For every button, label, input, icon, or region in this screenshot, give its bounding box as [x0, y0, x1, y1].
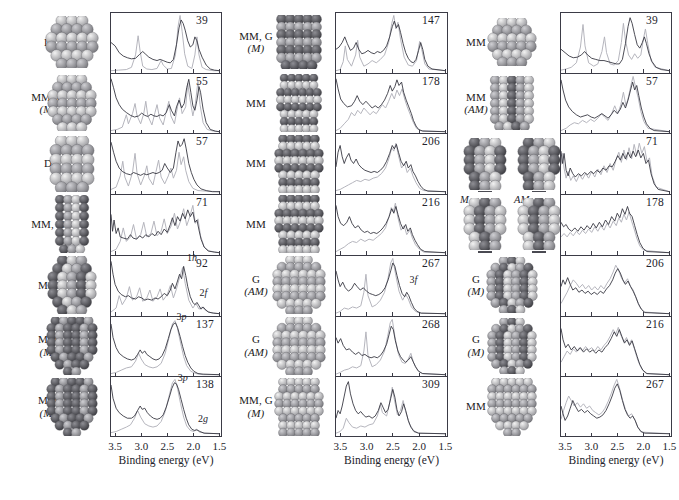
- panel-ticks: [560, 433, 672, 437]
- x-axis: 3.53.02.52.01.5Binding energy (eV): [110, 440, 222, 472]
- cluster-size-label: 206: [646, 257, 664, 269]
- axis-tick-label: 2.5: [160, 440, 174, 452]
- theory-curve: [336, 387, 445, 434]
- cluster-structure-image: [272, 135, 326, 193]
- panel-ticks: [110, 433, 222, 437]
- orbital-annotation: 3p: [177, 311, 187, 322]
- cluster-structure-image: [458, 198, 566, 250]
- table-row: MM206: [225, 133, 457, 194]
- cluster-structure-image: [270, 256, 328, 314]
- experiment-curve: [111, 210, 219, 253]
- axis-tick: [392, 433, 393, 437]
- cluster-structure-image: [44, 317, 100, 375]
- table-row: MAM71: [450, 133, 679, 194]
- orbital-annotation: 2g: [198, 413, 208, 424]
- cluster-size-label: 178: [646, 196, 664, 208]
- table-row: MM39: [450, 12, 679, 73]
- axis-tick: [419, 433, 420, 437]
- cluster-size-label: 138: [196, 378, 214, 390]
- table-row: G(AM)2673f: [225, 255, 457, 316]
- cluster-structure-image: [270, 317, 328, 375]
- table-row: G(AM)268: [225, 316, 457, 377]
- cluster-size-label: 57: [196, 135, 208, 147]
- cluster-size-label: 71: [646, 135, 658, 147]
- axis-tick-labels: 3.53.02.52.01.5: [335, 440, 448, 454]
- axis-tick: [193, 433, 194, 437]
- axis-tick: [219, 433, 220, 437]
- axis-tick: [115, 433, 116, 437]
- experiment-curve: [561, 384, 669, 434]
- cluster-structure-image: [272, 378, 326, 436]
- orbital-annotation: 1h: [187, 252, 197, 263]
- column-1: D39MM, G(M)55D57MM, G71MM921h2fMM(M)1373…: [0, 0, 232, 500]
- cluster-size-label: 137: [196, 318, 214, 330]
- axis-tick-label: 3.5: [108, 440, 122, 452]
- theory-curve: [111, 81, 219, 132]
- cluster-structure-image: [272, 195, 326, 253]
- axis-tick-label: 3.0: [360, 440, 374, 452]
- experiment-curve: [111, 322, 219, 374]
- axis-tick-label: 3.0: [134, 440, 148, 452]
- cluster-size-label: 55: [196, 75, 208, 87]
- panel-ticks: [335, 433, 448, 437]
- table-row: G(M)206: [450, 255, 679, 316]
- cluster-size-label: 147: [422, 14, 440, 26]
- experiment-curve: [561, 207, 669, 253]
- cluster-structure-image: [486, 18, 538, 66]
- figure-root: D39MM, G(M)55D57MM, G71MM921h2fMM(M)1373…: [0, 0, 679, 500]
- scale-bar: [478, 191, 492, 193]
- cluster-structure-image: [485, 318, 539, 374]
- table-row: MM, G71: [0, 194, 232, 255]
- cluster-structure-image: [44, 75, 100, 131]
- table-row: MM(AM)57: [450, 73, 679, 134]
- cluster-size-label: 39: [646, 14, 658, 26]
- cluster-structure-image: [274, 74, 324, 132]
- cluster-structure-image: [485, 378, 539, 436]
- axis-tick-labels: 3.53.02.52.01.5: [110, 440, 222, 454]
- cluster-structure-image: [273, 15, 325, 69]
- orbital-annotation: 3f: [410, 274, 418, 285]
- cluster-size-label: 216: [422, 196, 440, 208]
- cluster-structure-image: [484, 257, 540, 313]
- axis-tick: [643, 433, 644, 437]
- axis-tick-label: 3.5: [333, 440, 347, 452]
- experiment-curve: [336, 205, 445, 252]
- table-row: MM921h2f: [0, 255, 232, 316]
- column-2: MM, G(M)147MM178MM206MM216G(AM)2673fG(AM…: [225, 0, 457, 500]
- cluster-structure-image: [44, 256, 100, 314]
- cluster-size-label: 39: [196, 14, 208, 26]
- experiment-curve: [336, 145, 445, 192]
- column-3: MM39MM(AM)57MAM71178G(M)206G(M)216MM2673…: [450, 0, 679, 500]
- axis-tick-label: 2.0: [412, 440, 426, 452]
- x-axis: 3.53.02.52.01.5Binding energy (eV): [335, 440, 448, 472]
- cluster-size-label: 267: [646, 378, 664, 390]
- cluster-size-label: 71: [196, 196, 208, 208]
- axis-title: Binding energy (eV): [560, 454, 672, 466]
- cluster-structure-image: [44, 378, 100, 436]
- axis-title: Binding energy (eV): [335, 454, 448, 466]
- theory-curve: [336, 89, 445, 132]
- axis-tick-label: 1.5: [663, 440, 677, 452]
- axis-tick-label: 3.0: [584, 440, 598, 452]
- cluster-size-label: 309: [422, 378, 440, 390]
- axis-tick: [617, 433, 618, 437]
- axis-tick: [340, 433, 341, 437]
- orbital-annotation: 2f: [200, 287, 208, 298]
- axis-tick: [445, 433, 446, 437]
- scale-bar: [532, 191, 546, 193]
- experiment-curve: [336, 326, 445, 374]
- table-row: MM, G(M)309: [225, 376, 457, 437]
- table-row: 178: [450, 194, 679, 255]
- cluster-size-label: 57: [646, 75, 658, 87]
- table-row: G(M)216: [450, 316, 679, 377]
- axis-tick: [167, 433, 168, 437]
- cluster-structure-image: [44, 16, 100, 68]
- axis-title: Binding energy (eV): [110, 454, 222, 466]
- experiment-curve: [561, 150, 669, 192]
- experiment-curve: [336, 263, 445, 314]
- table-row: MM(M)1383p2g: [0, 376, 232, 437]
- cluster-structure-image: [45, 136, 99, 192]
- axis-tick-label: 2.5: [386, 440, 400, 452]
- axis-tick: [669, 433, 670, 437]
- cluster-size-label: 206: [422, 135, 440, 147]
